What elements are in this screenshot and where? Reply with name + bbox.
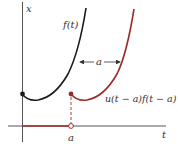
open-circle-a	[69, 124, 74, 129]
tick-label-a: a	[68, 132, 74, 143]
f-start-dot	[20, 92, 25, 97]
shifted-start-dot	[69, 92, 74, 97]
shift-label: a	[96, 56, 102, 67]
f-label: f(t)	[62, 19, 79, 30]
x-axis-label: t	[162, 129, 167, 140]
shifted-label: u(t − a)f(t − a)	[105, 93, 177, 104]
curve-shifted	[71, 9, 134, 100]
y-axis-label: x	[26, 3, 32, 14]
shifted-function-diagram: x t a f(t) a u(t − a)f(t − a)	[0, 0, 178, 150]
